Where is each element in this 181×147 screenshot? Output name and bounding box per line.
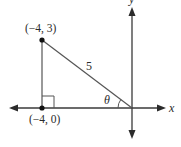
x-axis-left-arrow-icon bbox=[9, 105, 18, 112]
diagram-canvas: x y (−4, 3) (−4, 0) 5 θ bbox=[0, 0, 181, 147]
hypotenuse-length-label: 5 bbox=[86, 59, 92, 73]
y-axis-down-arrow-icon bbox=[129, 130, 136, 139]
x-axis-right-arrow-icon bbox=[157, 105, 166, 112]
y-axis: y bbox=[128, 0, 136, 139]
point-top-vertex bbox=[39, 37, 44, 42]
y-axis-up-arrow-icon bbox=[129, 7, 136, 16]
right-triangle bbox=[42, 40, 132, 108]
point-bottom-vertex-label: (−4, 0) bbox=[29, 113, 61, 126]
y-axis-label: y bbox=[128, 0, 135, 6]
angle-theta-label: θ bbox=[104, 93, 110, 107]
hypotenuse bbox=[42, 40, 132, 108]
point-top-vertex-label: (−4, 3) bbox=[25, 22, 57, 35]
x-axis-label: x bbox=[168, 101, 175, 115]
angle-theta-arc bbox=[118, 100, 121, 108]
point-bottom-vertex bbox=[39, 105, 44, 110]
